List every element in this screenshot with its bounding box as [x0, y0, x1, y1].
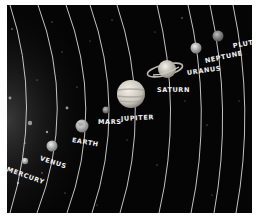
label-mars: MARS	[98, 118, 122, 126]
uranus-planet	[191, 43, 202, 54]
neptune-planet	[213, 31, 224, 42]
mars-planet	[103, 107, 110, 114]
label-saturn: SATURN	[157, 86, 190, 94]
earth-planet	[76, 120, 89, 133]
solar-system-image: MERCURY VENUS EARTH MARS JUPITER SATURN …	[7, 5, 252, 213]
label-jupiter: JUPITER	[121, 113, 154, 123]
jupiter-planet	[117, 80, 145, 108]
mercury-planet	[22, 158, 28, 164]
venus-planet	[47, 141, 58, 152]
